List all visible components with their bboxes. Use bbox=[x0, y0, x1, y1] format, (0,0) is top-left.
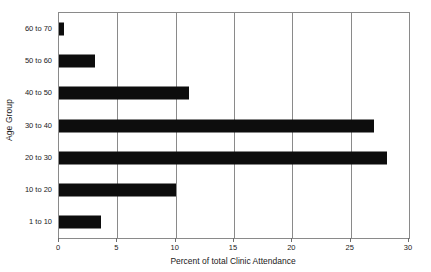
x-axis-tick-mark bbox=[233, 238, 234, 242]
y-axis-title-label: Age Group bbox=[4, 99, 14, 141]
x-axis-tick-mark bbox=[58, 238, 59, 242]
x-axis-tick-mark bbox=[350, 238, 351, 242]
x-axis-tick-mark bbox=[291, 238, 292, 242]
x-axis-tick-labels: 051015202530 bbox=[58, 243, 408, 255]
x-axis-tick-label: 25 bbox=[345, 243, 353, 252]
y-axis-tick-label: 50 to 60 bbox=[25, 56, 52, 65]
x-axis-tick-label: 30 bbox=[404, 243, 412, 252]
bar bbox=[59, 23, 64, 36]
y-axis-tick-label: 10 to 20 bbox=[25, 184, 52, 193]
x-axis-tick-mark bbox=[408, 238, 409, 242]
bar bbox=[59, 215, 101, 228]
x-axis-tick-label: 5 bbox=[114, 243, 118, 252]
y-axis-tick-label: 1 to 10 bbox=[29, 216, 52, 225]
y-axis-tick-labels: 1 to 1010 to 2020 to 3030 to 4040 to 505… bbox=[18, 12, 56, 237]
bar bbox=[59, 151, 387, 164]
x-axis-tick-label: 10 bbox=[170, 243, 178, 252]
bar bbox=[59, 183, 176, 196]
bar bbox=[59, 87, 189, 100]
bar bbox=[59, 119, 374, 132]
plot-area bbox=[58, 12, 410, 239]
y-axis-tick-label: 20 to 30 bbox=[25, 152, 52, 161]
x-axis-tick-mark bbox=[175, 238, 176, 242]
x-axis-tick-label: 15 bbox=[229, 243, 237, 252]
x-axis-tick-mark bbox=[116, 238, 117, 242]
y-axis-tick-label: 40 to 50 bbox=[25, 88, 52, 97]
y-axis-tick-label: 30 to 40 bbox=[25, 120, 52, 129]
x-axis-tick-label: 20 bbox=[287, 243, 295, 252]
x-axis-title: Percent of total Clinic Attendance bbox=[58, 256, 408, 266]
y-axis-title: Age Group bbox=[0, 0, 18, 240]
bars-layer bbox=[59, 13, 409, 238]
y-axis-tick-label: 60 to 70 bbox=[25, 24, 52, 33]
x-axis-tick-label: 0 bbox=[56, 243, 60, 252]
bar bbox=[59, 55, 95, 68]
bar-chart: Age Group 1 to 1010 to 2020 to 3030 to 4… bbox=[0, 0, 431, 272]
